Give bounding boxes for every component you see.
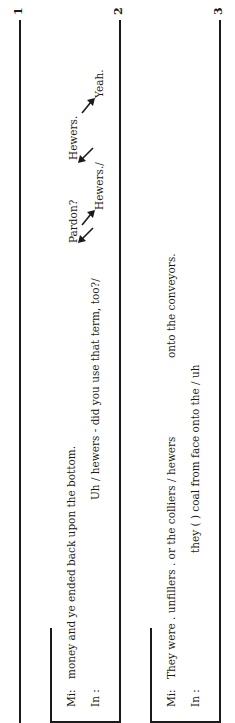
stave-3-speaker-mi: Mi:	[165, 689, 177, 707]
stave-3-top-line	[150, 628, 152, 723]
stave-line-2	[119, 20, 121, 723]
stave-number-1: 1	[12, 7, 25, 15]
stave-3-text-mi-tail: onto the conveyors.	[165, 253, 177, 358]
stave-2-top-line	[50, 628, 52, 723]
stave-2-text-mi: money and ye ended back upon the bottom.	[65, 446, 77, 679]
stave-line-3	[219, 20, 221, 723]
arrow-icon	[76, 225, 96, 245]
stave-3-text-mi: They were . unfillers . or the colliers …	[165, 437, 177, 679]
stave-2-speaker-in: In :	[89, 689, 101, 707]
stave-3-text-in: they ( ) coal from face onto the / uh	[189, 365, 201, 554]
stave-2-text-in: Uh / hewers - did you use that term, too…	[89, 278, 101, 500]
arrow-icon	[78, 207, 98, 227]
stave-number-2: 2	[112, 7, 125, 15]
stave-line-1	[19, 20, 21, 723]
overlap-yeah: Yeah.	[93, 69, 105, 98]
transcript-page: 1 2 Mi: money and ye ended back upon the…	[0, 0, 235, 723]
arrow-icon	[78, 95, 98, 115]
arrow-icon	[76, 145, 96, 165]
stave-number-3: 3	[212, 7, 225, 15]
stave-2-speaker-mi: Mi:	[65, 689, 77, 707]
overlap-hewers-lower: Hewers./	[93, 162, 105, 210]
stave-3-speaker-in: In :	[189, 689, 201, 707]
